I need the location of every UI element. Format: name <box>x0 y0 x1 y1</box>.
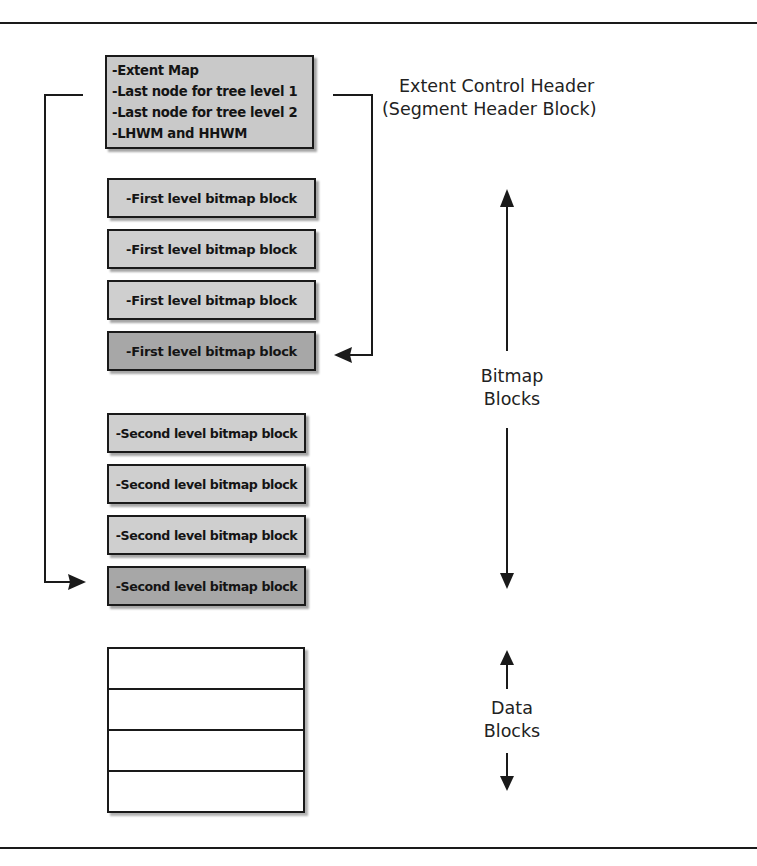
header-line-last-node-level-1: -Last node for tree level 1 <box>112 81 312 102</box>
block-label: -Second level bitmap block <box>116 477 297 492</box>
block-label: -Second level bitmap block <box>116 426 297 441</box>
header-label-line-1: Extent Control Header <box>397 75 597 98</box>
data-blocks-label: Data Blocks <box>472 697 552 743</box>
connector-right-line <box>333 95 372 355</box>
data-label-line-1: Data <box>472 697 552 720</box>
data-block <box>109 690 303 731</box>
header-label-line-2: (Segment Header Block) <box>382 98 597 121</box>
first-level-bitmap-block: -First level bitmap block <box>107 178 316 218</box>
block-label: -First level bitmap block <box>126 242 297 257</box>
arrow-up-icon <box>500 650 514 665</box>
top-rule <box>0 22 757 24</box>
extent-control-header-block: -Extent Map -Last node for tree level 1 … <box>105 55 314 149</box>
first-level-bitmap-block: -First level bitmap block <box>107 229 316 269</box>
bitmap-label-line-2: Blocks <box>472 388 552 411</box>
data-block <box>109 731 303 772</box>
header-line-hwm: -LHWM and HHWM <box>112 123 312 144</box>
extent-control-header-label: Extent Control Header (Segment Header Bl… <box>397 75 597 121</box>
block-label: -Second level bitmap block <box>116 579 297 594</box>
data-label-line-2: Blocks <box>472 720 552 743</box>
bitmap-label-line-1: Bitmap <box>472 365 552 388</box>
bitmap-blocks-label: Bitmap Blocks <box>472 365 552 411</box>
first-level-bitmap-block-last: -First level bitmap block <box>107 331 316 371</box>
block-label: -First level bitmap block <box>126 191 297 206</box>
block-label: -First level bitmap block <box>126 344 297 359</box>
arrow-down-icon <box>500 573 514 589</box>
arrow-up-icon <box>500 189 514 207</box>
data-block <box>109 649 303 690</box>
header-line-last-node-level-2: -Last node for tree level 2 <box>112 102 312 123</box>
second-level-bitmap-block: -Second level bitmap block <box>107 413 306 453</box>
first-level-bitmap-block: -First level bitmap block <box>107 280 316 320</box>
data-blocks-stack <box>107 647 305 813</box>
header-line-extent-map: -Extent Map <box>112 60 312 81</box>
arrow-left-icon <box>334 347 352 363</box>
arrow-down-icon <box>500 776 514 791</box>
second-level-bitmap-block: -Second level bitmap block <box>107 464 306 504</box>
bottom-rule <box>0 847 757 849</box>
second-level-bitmap-block-last: -Second level bitmap block <box>107 566 306 606</box>
second-level-bitmap-block: -Second level bitmap block <box>107 515 306 555</box>
arrow-right-icon <box>68 574 86 590</box>
data-block <box>109 772 303 813</box>
block-label: -First level bitmap block <box>126 293 297 308</box>
block-label: -Second level bitmap block <box>116 528 297 543</box>
connector-left-line <box>45 95 83 582</box>
